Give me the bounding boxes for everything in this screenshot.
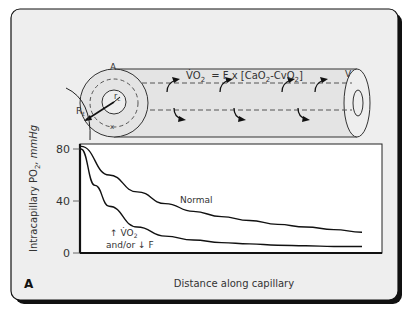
label-A: A [110, 62, 117, 72]
y-tick-0: 0 [63, 247, 70, 260]
curve-label-increased-vo2-line2: and/or ↓ F [106, 240, 154, 250]
venous-end-capillary-ellipse [353, 90, 363, 116]
curve-label-normal: Normal [180, 195, 213, 205]
label-V: V [345, 69, 352, 79]
curve-label-increased-vo2-line1: ↑ V̇O2 [110, 227, 138, 239]
x-axis-label: Distance along capillary [174, 278, 294, 289]
panel-label: A [24, 277, 34, 291]
y-tick-40: 40 [56, 195, 70, 208]
y-tick-80: 80 [56, 143, 70, 156]
capillary-cylinder-diagram: A V Rt rc x V̇O2= F x [CaO2-CvO2] [66, 62, 370, 140]
figure: A V Rt rc x V̇O2= F x [CaO2-CvO2] 80 40 … [0, 0, 408, 312]
label-x: x [110, 123, 114, 131]
